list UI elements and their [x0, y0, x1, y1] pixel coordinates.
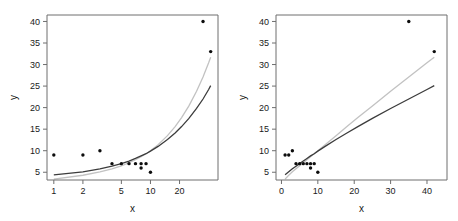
curves-left: [54, 57, 211, 179]
data-point: [144, 162, 147, 165]
y-tick-label: 40: [30, 17, 40, 27]
figure-container: 1251020510152025303540 x y 0102030405101…: [0, 0, 458, 221]
data-point: [120, 162, 123, 165]
y-tick-label: 30: [30, 60, 40, 70]
data-point: [283, 153, 286, 156]
fit-curve-light: [285, 57, 434, 179]
y-tick-label: 15: [30, 124, 40, 134]
data-point: [149, 171, 152, 174]
data-point: [302, 162, 305, 165]
data-point: [407, 20, 410, 23]
data-point: [52, 153, 55, 156]
data-point: [134, 162, 137, 165]
curves-right: [285, 57, 434, 179]
plot-frame: [276, 15, 447, 180]
x-axis-title: x: [359, 203, 364, 214]
data-point: [309, 166, 312, 169]
data-point: [313, 162, 316, 165]
x-tick-label: 20: [175, 186, 185, 196]
plot-frame: [47, 15, 218, 180]
data-point: [81, 153, 84, 156]
data-point: [209, 50, 212, 53]
data-point: [309, 162, 312, 165]
x-tick-label: 10: [313, 186, 323, 196]
tick-labels-left: 1251020510152025303540: [30, 17, 185, 196]
y-tick-label: 25: [259, 81, 269, 91]
y-axis-title: y: [237, 95, 248, 100]
data-point: [110, 162, 113, 165]
plot-svg-left: 1251020510152025303540 x y: [0, 0, 229, 221]
data-point: [298, 162, 301, 165]
x-tick-label: 10: [145, 186, 155, 196]
y-tick-label: 20: [30, 103, 40, 113]
y-tick-label: 10: [30, 146, 40, 156]
scatter-points: [52, 20, 212, 174]
x-tick-label: 5: [119, 186, 124, 196]
x-tick-label: 40: [422, 186, 432, 196]
x-tick-label: 0: [279, 186, 284, 196]
y-tick-label: 10: [259, 146, 269, 156]
x-tick-label: 30: [386, 186, 396, 196]
axes-right: [272, 15, 447, 184]
y-tick-label: 40: [259, 17, 269, 27]
y-tick-label: 5: [35, 167, 40, 177]
data-point: [139, 166, 142, 169]
data-point: [316, 171, 319, 174]
y-tick-label: 25: [30, 81, 40, 91]
y-tick-label: 35: [259, 38, 269, 48]
y-tick-label: 5: [264, 167, 269, 177]
plot-svg-right: 010203040510152025303540 x y: [229, 0, 458, 221]
y-tick-label: 35: [30, 38, 40, 48]
data-point: [305, 162, 308, 165]
data-point: [139, 162, 142, 165]
x-tick-label: 1: [51, 186, 56, 196]
x-tick-label: 2: [80, 186, 85, 196]
y-tick-label: 15: [259, 124, 269, 134]
data-point: [127, 162, 130, 165]
chart-panel-right: 010203040510152025303540 x y: [229, 0, 458, 221]
data-point: [291, 149, 294, 152]
y-tick-label: 30: [259, 60, 269, 70]
fit-curve-light: [54, 57, 211, 179]
x-axis-title: x: [130, 203, 135, 214]
data-point: [287, 153, 290, 156]
fit-curve-dark: [285, 86, 434, 175]
data-point: [294, 162, 297, 165]
x-tick-label: 20: [349, 186, 359, 196]
tick-labels-right: 010203040510152025303540: [259, 17, 432, 196]
data-point: [201, 20, 204, 23]
data-point: [98, 149, 101, 152]
y-axis-title: y: [8, 95, 19, 100]
chart-panel-left: 1251020510152025303540 x y: [0, 0, 229, 221]
y-tick-label: 20: [259, 103, 269, 113]
data-point: [433, 50, 436, 53]
